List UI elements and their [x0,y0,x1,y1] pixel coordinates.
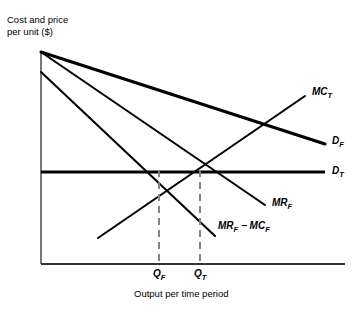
curve-label-dt-sub: T [339,170,344,179]
tick-label-qt-sub: T [202,273,207,282]
curve-label-dt: DT [332,165,344,181]
economics-diagram: Cost and priceper unit ($) Output per ti… [0,0,364,314]
curve-marginal-revenue-franchisor [41,52,265,205]
tick-label-qf-base: Q [153,268,161,279]
curve-marginal-cost-total [98,96,305,238]
curve-label-mrf-minus-mcf: MRF − MCF [218,220,270,236]
curve-label-mrfmcf-b-base: MC [250,220,266,231]
y-axis-title-line1: Cost and price [7,14,68,25]
curve-label-mct: MCT [312,86,332,102]
x-axis-title: Output per time period [134,288,229,300]
curve-label-mrfmcf-a-base: MR [218,220,234,231]
curve-label-mrf-base: MR [272,197,288,208]
tick-label-qt: QT [194,268,206,284]
curve-label-mrf-sub: F [288,202,293,211]
tick-label-qf-sub: F [161,273,166,282]
curve-demand-franchisor [41,52,325,144]
tick-label-qf: QF [153,268,165,284]
curve-label-df: DF [332,135,344,151]
tick-label-qt-base: Q [194,268,202,279]
curve-label-mct-sub: T [328,91,333,100]
diagram-canvas [0,0,364,314]
curve-label-mct-base: MC [312,86,328,97]
y-axis-title: Cost and priceper unit ($) [7,14,68,37]
y-axis-title-line2: per unit ($) [7,26,53,37]
curve-label-df-sub: F [339,140,344,149]
curve-label-mrfmcf-b-sub: F [265,225,270,234]
curve-label-mrf: MRF [272,197,292,213]
curve-label-mrfmcf-operator: − [238,220,249,231]
